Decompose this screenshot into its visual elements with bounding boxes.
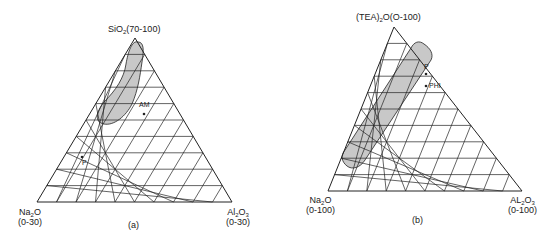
data-point-am — [143, 113, 146, 116]
panel-b-caption: (b) — [412, 215, 423, 225]
point-label-phi: PHI — [429, 82, 441, 89]
point-label-am: AM — [139, 101, 150, 108]
grid-line — [47, 186, 213, 202]
ternary-diagrams-svg — [0, 0, 556, 236]
grid-line — [335, 175, 503, 191]
data-point-phi — [425, 85, 428, 88]
panel-b-right-label: AL2O3 (0-100) — [508, 195, 537, 215]
grid-line — [86, 120, 135, 202]
panel-a-apex-label: SiO2(70-100) — [108, 24, 160, 34]
data-point-p — [81, 156, 84, 159]
panel-b-apex-label: (TEA)2O(O-100) — [356, 12, 421, 22]
grid-line — [464, 142, 484, 191]
point-label-p-b: P — [424, 63, 429, 70]
grid-line — [503, 175, 510, 191]
ternary-diagram-figure: SiO2(70-100) Na2O (0-30) Al2O3 (0-30) (a… — [0, 0, 556, 236]
panel-b-left-label: Na2O (0-100) — [306, 195, 335, 215]
grid-line — [213, 186, 223, 202]
data-point-p — [425, 73, 428, 76]
panel-a-right-label: Al2O3 (0-30) — [226, 207, 250, 227]
point-label-p-a: P — [82, 159, 87, 166]
panel-a-left-label: Na2O (0-30) — [18, 207, 42, 227]
grid-line — [348, 142, 464, 191]
panel-a-caption: (a) — [128, 220, 139, 230]
grid-line — [174, 153, 203, 202]
